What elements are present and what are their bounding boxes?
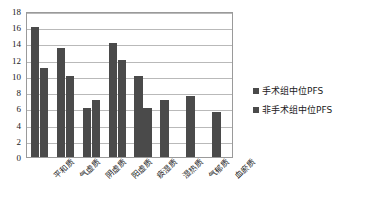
x-axis: 平和质气虚质阴虚质阳虚质痰湿质湿热质气郁质血瘀质 [26, 158, 233, 204]
legend-item-label: 手术组中位PFS [262, 87, 323, 96]
bar [212, 112, 221, 157]
y-axis-tick-label: 12 [12, 56, 21, 65]
x-axis-tick-label: 湿热质 [182, 158, 205, 181]
bar-chart: 024681012141618 平和质气虚质阴虚质阳虚质痰湿质湿热质气郁质血瘀质… [0, 0, 375, 204]
x-axis-tick-label: 阳虚质 [131, 158, 154, 181]
x-axis-tick-label: 血瘀质 [234, 158, 257, 181]
y-axis-tick-label: 4 [17, 121, 22, 130]
bar [109, 43, 118, 157]
bar [57, 48, 66, 158]
bar [40, 68, 49, 157]
bar [160, 100, 169, 157]
bar [134, 76, 143, 157]
bar-group [212, 13, 230, 157]
y-axis-tick-label: 0 [17, 154, 22, 163]
bar [31, 27, 40, 157]
y-axis-tick-label: 2 [17, 137, 22, 146]
bar-group [160, 13, 178, 157]
y-axis-tick-label: 16 [12, 24, 21, 33]
x-axis-tick-label: 气郁质 [208, 158, 231, 181]
legend-swatch-icon [253, 107, 259, 113]
legend-swatch-icon [253, 88, 259, 94]
y-axis-tick-label: 18 [12, 8, 21, 17]
y-axis-tick-label: 8 [17, 89, 22, 98]
bar-group [83, 13, 101, 157]
bar-group [186, 13, 204, 157]
bar [143, 108, 152, 157]
bar-group [57, 13, 75, 157]
x-axis-tick-label: 气虚质 [79, 158, 102, 181]
y-axis: 024681012141618 [0, 12, 24, 158]
bar-group [134, 13, 152, 157]
y-axis-tick-label: 10 [12, 72, 21, 81]
chart-legend: 手术组中位PFS非手术组中位PFS [253, 83, 373, 121]
plot-area [26, 12, 233, 158]
x-axis-tick-label: 痰湿质 [156, 158, 179, 181]
bar [186, 96, 195, 157]
y-axis-tick-label: 6 [17, 105, 22, 114]
legend-item-label: 非手术组中位PFS [262, 106, 332, 115]
bar-group [109, 13, 127, 157]
x-axis-tick-label: 平和质 [53, 158, 76, 181]
bar [83, 108, 92, 157]
legend-item[interactable]: 非手术组中位PFS [253, 102, 373, 118]
legend-item[interactable]: 手术组中位PFS [253, 83, 373, 99]
bar [92, 100, 101, 157]
bars-layer [27, 13, 232, 157]
bar-group [31, 13, 49, 157]
y-axis-tick-label: 14 [12, 40, 21, 49]
bar [66, 76, 75, 157]
bar [118, 60, 127, 157]
x-axis-tick-label: 阴虚质 [105, 158, 128, 181]
